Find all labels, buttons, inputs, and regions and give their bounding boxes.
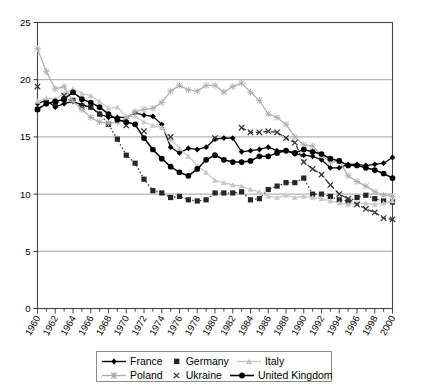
data-point — [371, 189, 378, 196]
data-point — [221, 190, 226, 195]
data-point — [372, 167, 378, 173]
data-point — [301, 147, 307, 153]
data-point — [124, 153, 129, 158]
legend-item-poland: Poland — [101, 370, 163, 381]
data-point — [372, 161, 378, 167]
xtick-label-1988: 1988 — [271, 314, 291, 338]
data-point — [88, 100, 94, 106]
data-point — [52, 86, 59, 93]
data-point — [167, 88, 174, 95]
data-point — [61, 83, 68, 90]
data-point — [79, 91, 85, 96]
data-point — [43, 68, 50, 75]
xtick-label-1970: 1970 — [111, 314, 131, 338]
xtick-label-1984: 1984 — [235, 314, 255, 338]
data-point — [336, 158, 342, 164]
xtick-label-1976: 1976 — [164, 314, 184, 338]
data-point — [97, 104, 103, 110]
data-point — [168, 195, 173, 200]
data-point — [204, 197, 209, 202]
series-line — [38, 49, 393, 197]
data-point — [229, 83, 236, 90]
data-point — [354, 163, 360, 169]
data-point — [185, 145, 191, 151]
legend-key-france-icon — [101, 356, 127, 367]
series-poland — [34, 46, 396, 200]
xtick-label-1962: 1962 — [40, 314, 60, 338]
data-point — [354, 178, 361, 185]
data-point — [212, 190, 217, 195]
xtick-label-1968: 1968 — [93, 314, 113, 338]
data-point — [150, 147, 156, 153]
data-point — [141, 119, 147, 124]
data-point — [194, 166, 200, 172]
xtick-label-1986: 1986 — [253, 314, 273, 338]
data-point — [274, 150, 280, 156]
ytick-label-15: 15 — [20, 131, 31, 142]
data-point — [159, 190, 164, 195]
data-point — [106, 111, 112, 117]
data-point — [123, 119, 129, 125]
xtick-label-1998: 1998 — [360, 314, 380, 338]
data-point — [141, 128, 146, 133]
data-point — [70, 89, 76, 95]
data-point — [115, 137, 120, 142]
data-point — [150, 188, 155, 193]
xtick-label-1966: 1966 — [76, 314, 96, 338]
data-point — [194, 147, 200, 153]
data-point — [283, 180, 288, 185]
data-point — [363, 183, 370, 190]
data-point — [283, 192, 289, 197]
data-point — [70, 98, 77, 105]
data-point — [44, 101, 50, 107]
legend-label-france: France — [130, 356, 163, 367]
series-line — [242, 128, 393, 220]
data-point — [132, 121, 138, 127]
data-point — [283, 121, 290, 128]
legend-key-united-kingdom-icon — [229, 370, 255, 381]
data-point — [230, 159, 236, 165]
data-point — [301, 159, 306, 164]
data-point — [301, 152, 307, 158]
xtick-label-1978: 1978 — [182, 314, 202, 338]
ytick-label-5: 5 — [25, 246, 30, 257]
data-point — [310, 166, 315, 171]
data-point — [141, 106, 148, 113]
data-point — [238, 80, 245, 87]
data-point — [257, 153, 263, 159]
data-point — [319, 151, 325, 157]
data-point — [328, 182, 333, 187]
data-point — [345, 172, 352, 179]
data-point — [275, 183, 280, 188]
xtick-label-1990: 1990 — [289, 314, 309, 338]
xtick-label-1994: 1994 — [324, 314, 344, 338]
data-point — [221, 135, 227, 141]
data-point — [363, 193, 368, 198]
legend-label-ukraine: Ukraine — [186, 370, 222, 381]
legend-item-germany: Germany — [170, 356, 229, 367]
legend-item-ukraine: Ukraine — [170, 370, 222, 381]
ytick-label-0: 0 — [25, 303, 30, 314]
data-point — [150, 105, 157, 112]
xtick-label-1982: 1982 — [218, 314, 238, 338]
chart-container: 0510152025196019621964196619681970197219… — [0, 0, 429, 389]
data-point — [115, 117, 121, 123]
xtick-label-1964: 1964 — [58, 314, 78, 338]
xtick-label-1996: 1996 — [342, 314, 362, 338]
data-point — [34, 46, 41, 53]
ytick-label-20: 20 — [20, 74, 31, 85]
data-point — [372, 196, 377, 201]
legend-item-italy: Italy — [236, 356, 284, 367]
data-point — [292, 134, 299, 141]
data-point — [283, 135, 288, 140]
data-point — [247, 89, 254, 96]
xtick-label-1980: 1980 — [200, 314, 220, 338]
data-point — [256, 97, 263, 104]
data-point — [141, 112, 147, 118]
data-point — [257, 196, 262, 201]
data-point — [141, 135, 147, 141]
legend-key-italy-icon — [236, 356, 262, 367]
data-point — [363, 165, 369, 171]
data-point — [265, 111, 272, 118]
data-point — [256, 147, 262, 153]
